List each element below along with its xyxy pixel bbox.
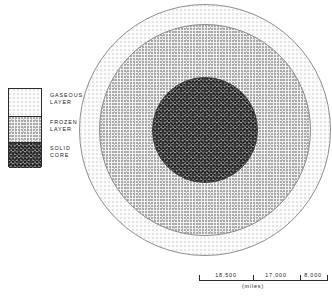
legend-swatch-frozen-layer: [9, 116, 41, 142]
scale-value-inner: 8,000: [304, 272, 322, 278]
legend-label-gaseous-layer: GASEOUS LAYER: [50, 92, 83, 107]
scale-tick: [253, 275, 254, 281]
legend-label-solid-core: SOLID CORE: [50, 145, 71, 160]
scale-tick: [300, 275, 301, 281]
legend-swatch-gaseous-layer: [9, 89, 41, 116]
legend-swatch-box: [8, 88, 42, 167]
legend-label-frozen-layer: FROZEN LAYER: [50, 119, 78, 134]
scale-value-outer: 18,500: [215, 272, 237, 278]
scale-tick: [199, 275, 200, 281]
solid-core-circle: [152, 77, 258, 183]
scale-tick: [327, 275, 328, 281]
scale-unit-label: (miles): [242, 283, 264, 289]
diagram-page: GASEOUS LAYER FROZEN LAYER SOLID CORE 18…: [0, 0, 332, 297]
legend-swatch-solid-core: [9, 142, 41, 168]
scale-bar-rule: [199, 280, 327, 281]
scale-value-middle: 17,000: [265, 272, 287, 278]
